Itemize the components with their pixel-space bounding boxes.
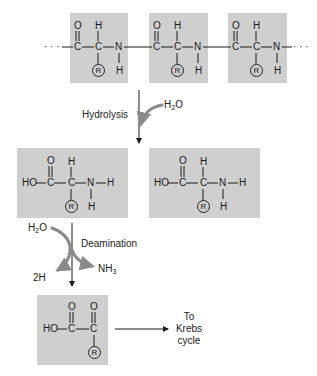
aa2-nitrogen: N — [219, 178, 226, 188]
unit2-carbonyl-carbon: C — [153, 42, 160, 52]
aa1-carboxyl-carbon: C — [47, 178, 54, 188]
keto-oxygen-1: O — [68, 302, 76, 312]
aa1-r-group: R — [65, 200, 78, 213]
deamination-label: Deamination — [81, 238, 137, 250]
aa1-oxygen: O — [47, 156, 55, 166]
aa2-h-top: H — [200, 157, 207, 167]
aa2-r-group: R — [197, 200, 210, 213]
unit1-h-bottom: H — [116, 66, 123, 76]
unit3-oxygen: O — [232, 21, 240, 31]
hydrolysis-label: Hydrolysis — [82, 109, 128, 121]
aa2-carboxyl-carbon: C — [179, 178, 186, 188]
aa2-hydroxyl: HO — [154, 178, 169, 188]
unit3-h-bottom: H — [274, 66, 281, 76]
keto-r-group: R — [88, 346, 101, 359]
unit1-alpha-carbon: C — [95, 42, 102, 52]
unit2-r-group: R — [171, 64, 184, 77]
keto-carbon-1: C — [68, 324, 75, 334]
aa1-h-top: H — [68, 157, 75, 167]
aa2-oxygen: O — [179, 156, 187, 166]
unit1-r-group: R — [92, 64, 105, 77]
aa1-nitrogen: N — [87, 178, 94, 188]
aa1-hydroxyl: HO — [22, 178, 37, 188]
aa1-h-bottom: H — [88, 202, 95, 212]
deamination-water: H2O — [28, 222, 47, 234]
keto-hydroxyl: HO — [43, 324, 58, 334]
unit2-h-top: H — [174, 21, 181, 31]
deamination-ammonia: NH3 — [98, 263, 116, 275]
chain-ellipsis-left: · · · — [44, 42, 60, 52]
unit3-carbonyl-carbon: C — [232, 42, 239, 52]
unit2-h-bottom: H — [195, 66, 202, 76]
aa2-alpha-carbon: C — [200, 178, 207, 188]
unit1-nitrogen: N — [115, 42, 122, 52]
chain-ellipsis-right: · · · — [293, 42, 309, 52]
krebs-destination-label: To Krebs cycle — [170, 311, 208, 347]
unit1-oxygen: O — [74, 21, 82, 31]
unit3-nitrogen: N — [273, 42, 280, 52]
unit2-nitrogen: N — [194, 42, 201, 52]
unit3-alpha-carbon: C — [253, 42, 260, 52]
aa1-alpha-carbon: C — [68, 178, 75, 188]
aa1-h-right: H — [107, 178, 114, 188]
unit2-oxygen: O — [153, 21, 161, 31]
aa2-h-right: H — [239, 178, 246, 188]
unit1-carbonyl-carbon: C — [74, 42, 81, 52]
deamination-2h: 2H — [33, 272, 46, 284]
hydrolysis-water: H2O — [164, 99, 183, 111]
unit3-h-top: H — [253, 21, 260, 31]
bonds-and-arrows — [0, 0, 317, 376]
keto-oxygen-2: O — [90, 302, 98, 312]
keto-carbon-2: C — [90, 324, 97, 334]
unit3-r-group: R — [250, 64, 263, 77]
aa2-h-bottom: H — [220, 202, 227, 212]
unit2-alpha-carbon: C — [174, 42, 181, 52]
unit1-h-top: H — [95, 21, 102, 31]
